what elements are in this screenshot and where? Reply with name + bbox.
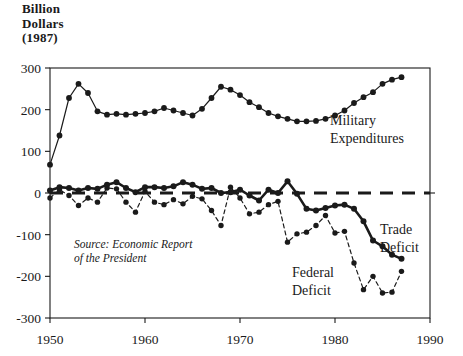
- y-tick-label: -200: [16, 269, 41, 284]
- data-point-marker: [104, 182, 110, 188]
- data-point-marker: [351, 260, 356, 265]
- data-point-marker: [266, 202, 271, 207]
- data-point-marker: [294, 231, 299, 236]
- data-point-marker: [152, 199, 157, 204]
- source-annotation-line1: Source: Economic Report: [74, 238, 193, 251]
- data-point-marker: [180, 179, 186, 185]
- data-point-marker: [123, 112, 129, 118]
- data-point-marker: [209, 185, 215, 191]
- data-point-marker: [123, 199, 128, 204]
- data-point-marker: [313, 208, 319, 214]
- data-point-marker: [266, 110, 272, 116]
- data-point-marker: [247, 211, 252, 216]
- data-point-marker: [104, 112, 110, 118]
- data-point-marker: [95, 199, 100, 204]
- data-point-marker: [304, 229, 309, 234]
- data-point-marker: [199, 196, 204, 201]
- y-tick-label: 100: [21, 144, 42, 159]
- data-point-marker: [275, 190, 281, 196]
- y-tick-label: -100: [16, 228, 41, 243]
- data-point-marker: [294, 118, 300, 124]
- data-point-marker: [247, 99, 253, 105]
- data-point-marker: [304, 206, 310, 212]
- data-point-marker: [342, 202, 348, 208]
- x-axis-tick-labels: 19501960197019801990: [37, 332, 444, 347]
- data-point-marker: [399, 74, 405, 80]
- data-point-marker: [218, 223, 223, 228]
- data-point-marker: [171, 197, 176, 202]
- data-point-marker: [161, 105, 167, 111]
- series-label-military-line2: Expenditures: [330, 131, 404, 146]
- data-point-marker: [47, 195, 52, 200]
- data-point-marker: [171, 183, 177, 189]
- data-point-marker: [161, 202, 166, 207]
- data-point-marker: [256, 104, 262, 110]
- data-point-marker: [399, 256, 405, 262]
- data-point-marker: [199, 106, 205, 112]
- series-label-military-line1: Military: [330, 113, 376, 128]
- data-point-marker: [161, 185, 167, 191]
- data-point-marker: [351, 100, 357, 106]
- series-label-federal-line1: Federal: [292, 265, 334, 280]
- x-tick-label: 1970: [227, 332, 254, 347]
- x-tick-label: 1990: [417, 332, 444, 347]
- data-point-marker: [142, 110, 148, 116]
- data-point-marker: [199, 186, 205, 192]
- data-point-marker: [180, 110, 186, 116]
- data-point-marker: [237, 187, 243, 193]
- data-point-marker: [218, 190, 224, 196]
- data-point-marker: [209, 208, 214, 213]
- data-point-marker: [332, 230, 337, 235]
- data-point-marker: [370, 238, 376, 244]
- data-point-marker: [228, 184, 233, 189]
- data-point-marker: [399, 269, 404, 274]
- data-point-marker: [304, 118, 310, 124]
- data-point-marker: [285, 178, 291, 184]
- data-point-marker: [133, 111, 139, 117]
- data-point-marker: [380, 290, 385, 295]
- data-point-marker: [389, 77, 395, 83]
- data-point-marker: [66, 185, 72, 191]
- data-point-marker: [342, 229, 347, 234]
- data-point-marker: [218, 84, 224, 90]
- data-point-marker: [114, 186, 119, 191]
- data-point-marker: [351, 206, 357, 212]
- data-point-marker: [313, 223, 318, 228]
- data-point-marker: [380, 81, 386, 87]
- data-point-marker: [228, 189, 234, 195]
- data-point-marker: [361, 94, 367, 100]
- data-point-marker: [228, 87, 234, 93]
- data-point-marker: [256, 209, 261, 214]
- data-point-marker: [323, 116, 329, 122]
- data-point-marker: [76, 81, 82, 87]
- data-point-marker: [389, 289, 394, 294]
- data-point-marker: [85, 195, 90, 200]
- x-tick-label: 1960: [132, 332, 159, 347]
- chart-plot-area: 19501960197019801990 -300-200-1000100200…: [0, 0, 463, 356]
- data-point-marker: [57, 133, 63, 139]
- data-point-marker: [294, 191, 300, 197]
- data-point-marker: [332, 203, 338, 209]
- data-point-marker: [152, 108, 158, 114]
- data-point-marker: [285, 116, 291, 122]
- data-point-marker: [114, 111, 120, 117]
- data-point-marker: [85, 90, 91, 96]
- data-point-marker: [275, 113, 281, 119]
- data-point-marker: [361, 218, 367, 224]
- y-tick-label: -300: [16, 311, 41, 326]
- data-point-marker: [370, 274, 375, 279]
- data-point-marker: [180, 201, 185, 206]
- data-point-marker: [114, 179, 120, 185]
- data-point-marker: [85, 185, 91, 191]
- data-point-marker: [323, 213, 328, 218]
- series-label-federal-line2: Deficit: [292, 283, 331, 298]
- chart-figure: BillionDollars(1987) 1950196019701980199…: [0, 0, 463, 356]
- x-tick-label: 1950: [37, 332, 64, 347]
- y-tick-label: 0: [34, 186, 41, 201]
- data-point-marker: [142, 184, 148, 190]
- data-point-marker: [313, 118, 319, 124]
- data-point-marker: [190, 194, 195, 199]
- data-point-marker: [256, 198, 262, 204]
- data-point-marker: [47, 162, 53, 168]
- data-point-marker: [275, 199, 280, 204]
